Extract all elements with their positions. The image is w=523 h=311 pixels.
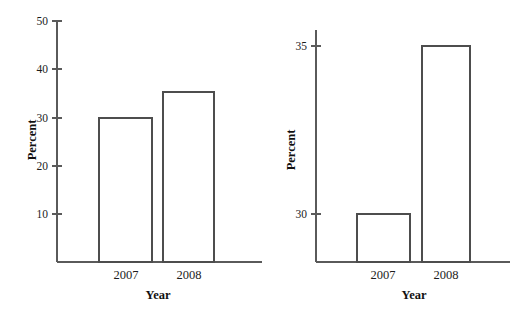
left-chart-svg: 50 40 30 20 10 2007 2008 Year Percent	[0, 0, 262, 311]
right-bar-2007	[357, 214, 410, 262]
right-category-label-2008: 2008	[434, 268, 459, 282]
right-ytick-label-35: 35	[296, 40, 308, 52]
right-chart-svg: 35 30 2007 2008 Year Percent	[261, 0, 523, 311]
left-ytick-label-40: 40	[37, 63, 49, 75]
right-ytick-label-30: 30	[296, 208, 308, 220]
left-category-label-2008: 2008	[177, 268, 202, 282]
left-chart-panel: 50 40 30 20 10 2007 2008 Year Percent	[0, 0, 262, 311]
left-bar-2007	[99, 118, 152, 262]
left-y-axis-title: Percent	[25, 119, 39, 161]
left-ytick-label-50: 50	[37, 15, 49, 27]
right-y-axis-title: Percent	[284, 129, 298, 171]
left-x-axis-title: Year	[146, 288, 171, 302]
two-bar-charts-figure: 50 40 30 20 10 2007 2008 Year Percent	[0, 0, 523, 311]
right-x-axis-title: Year	[402, 288, 427, 302]
right-category-label-2007: 2007	[371, 268, 396, 282]
left-bar-2008	[163, 92, 214, 262]
left-ytick-label-10: 10	[37, 208, 49, 220]
left-ytick-label-20: 20	[37, 160, 49, 172]
left-category-label-2007: 2007	[114, 268, 139, 282]
right-bar-2008	[422, 46, 470, 262]
right-chart-panel: 35 30 2007 2008 Year Percent	[261, 0, 523, 311]
